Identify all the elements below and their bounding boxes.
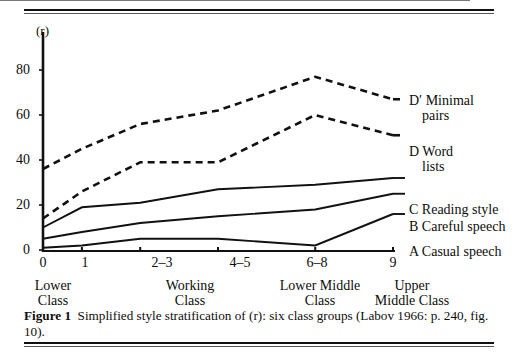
x-tick-label-1: 1 — [82, 256, 89, 270]
x-group-line-2: Middle Class — [375, 293, 449, 308]
x-group-label-lower-class: Lower Class — [35, 278, 72, 308]
legend-line-1: B Careful speech — [409, 219, 505, 234]
legend-line-1: C Reading style — [409, 202, 498, 217]
caption-top-rule — [0, 0, 470, 1]
series-line-B — [43, 194, 393, 239]
x-group-line-1: Lower Middle — [280, 278, 360, 293]
x-group-line-1: Lower — [35, 278, 72, 293]
legend-line-2: lists — [409, 159, 453, 174]
x-group-label-working-class: Working Class — [166, 278, 215, 308]
legend-item-b-careful-speech: B Careful speech — [409, 219, 505, 234]
x-tick-label-9: 9 — [390, 256, 397, 270]
x-group-line-2: Class — [305, 293, 335, 308]
legend-line-1: D′ Minimal — [409, 93, 474, 108]
figure-caption-text: Simplified style stratification of (r): … — [24, 308, 488, 339]
y-tick-label-20: 20 — [8, 198, 30, 212]
x-group-line-2: Class — [38, 293, 68, 308]
figure-caption-spacer — [71, 308, 78, 323]
bottom-rule-thin — [24, 346, 494, 347]
chart-axes — [39, 32, 395, 252]
x-group-line-1: Upper — [395, 278, 430, 293]
y-tick-label-0: 0 — [8, 243, 30, 257]
series-line-A — [43, 214, 393, 248]
series-line-D — [43, 115, 393, 219]
legend-line-2: pairs — [409, 108, 474, 123]
top-rule-thin — [24, 13, 494, 14]
legend-item-d-prime-minimal-pairs: D′ Minimal pairs — [409, 93, 474, 123]
figure-caption: Figure 1 Simplified style stratification… — [24, 308, 496, 340]
chart-plot-area: (r) 80 60 40 20 0 0 1 2–3 4–5 6–8 9 Lowe… — [0, 16, 517, 301]
y-axis-unit-label: (r) — [36, 24, 49, 37]
x-group-label-lower-middle-class: Lower Middle Class — [280, 278, 360, 308]
legend-item-a-casual-speech: A Casual speech — [409, 244, 502, 259]
bottom-rule-thick — [24, 342, 494, 344]
x-group-line-1: Working — [166, 278, 215, 293]
legend-item-c-reading-style: C Reading style — [409, 202, 498, 217]
x-tick-label-6-8: 6–8 — [307, 256, 328, 270]
legend-line-1: D Word — [409, 144, 453, 159]
figure-page: (r) 80 60 40 20 0 0 1 2–3 4–5 6–8 9 Lowe… — [0, 0, 517, 353]
legend-line-1: A Casual speech — [409, 244, 502, 259]
y-tick-label-80: 80 — [8, 63, 30, 77]
x-group-line-2: Class — [175, 293, 205, 308]
top-rule-thick — [24, 9, 494, 11]
y-tick-label-40: 40 — [8, 153, 30, 167]
x-tick-label-0: 0 — [40, 256, 47, 270]
figure-caption-label: Figure 1 — [24, 308, 71, 323]
x-tick-label-2-3: 2–3 — [152, 256, 173, 270]
y-tick-label-60: 60 — [8, 108, 30, 122]
legend-item-d-word-lists: D Word lists — [409, 144, 453, 174]
x-tick-label-4-5: 4–5 — [230, 256, 251, 270]
x-group-label-upper-middle-class: Upper Middle Class — [375, 278, 449, 308]
